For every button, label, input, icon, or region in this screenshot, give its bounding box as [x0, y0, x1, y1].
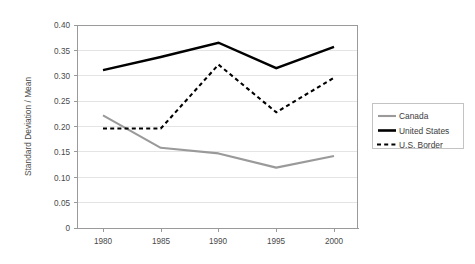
y-tick-label-005: 0.05: [54, 199, 70, 208]
y-tick-label-025: 0.25: [54, 97, 70, 106]
legend: Canada United States U.S. Border: [373, 104, 464, 150]
y-axis-title: Standard Deviation / Mean: [23, 77, 33, 177]
y-tick-label-015: 0.15: [54, 148, 70, 157]
legend-label-united-states: United States: [399, 126, 449, 136]
x-tick-label-1990: 1990: [209, 237, 228, 246]
y-tick-label-040: 0.40: [54, 21, 70, 30]
legend-label-canada: Canada: [399, 111, 429, 121]
chart-container: 0.40 0.35 0.30 0.25 0.20 0.15 0.10 0.05 …: [0, 0, 475, 264]
x-tick-label-1995: 1995: [267, 237, 286, 246]
y-tick-label-030: 0.30: [54, 72, 70, 81]
x-tick-label-2000: 2000: [325, 237, 344, 246]
y-axis-tick-labels: 0.40 0.35 0.30 0.25 0.20 0.15 0.10 0.05 …: [54, 21, 70, 233]
y-tick-label-035: 0.35: [54, 47, 70, 56]
y-tick-label-020: 0.20: [54, 123, 70, 132]
x-tick-label-1980: 1980: [94, 237, 113, 246]
x-tick-label-1985: 1985: [152, 237, 171, 246]
legend-label-us-border: U.S. Border: [399, 140, 443, 150]
y-tick-label-010: 0.10: [54, 174, 70, 183]
y-tick-label-000: 0: [65, 224, 70, 233]
line-chart: 0.40 0.35 0.30 0.25 0.20 0.15 0.10 0.05 …: [0, 0, 475, 264]
